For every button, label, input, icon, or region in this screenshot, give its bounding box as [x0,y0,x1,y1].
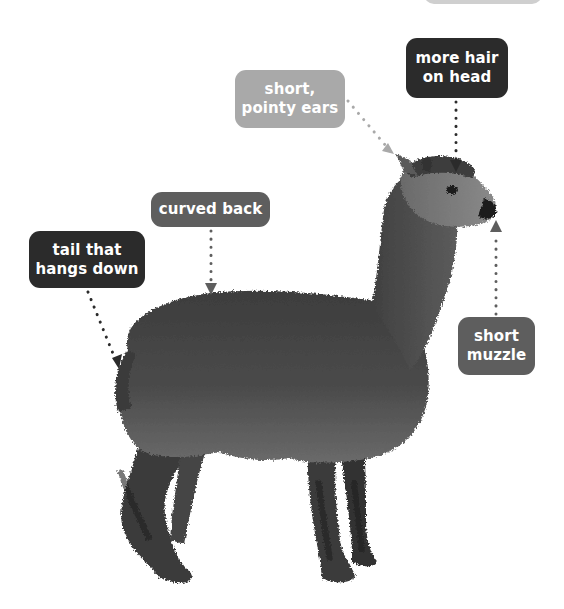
label-curved-back: curved back [151,192,270,227]
pointer-short-muzzle [490,220,502,314]
label-line: more hair [416,49,499,68]
label-line: curved back [159,200,263,219]
label-short-muzzle: short muzzle [458,317,535,375]
pointer-more-hair-on-head [450,102,462,172]
pointer-curved-back [205,231,217,295]
label-short-pointy-ears: short, pointy ears [235,70,345,128]
label-more-hair-on-head: more hair on head [406,38,508,98]
label-line: short, [265,80,316,99]
label-line: tail that [53,241,122,260]
label-line: hangs down [36,260,139,279]
label-tail-that-hangs-down: tail that hangs down [29,231,145,288]
label-line: on head [423,68,492,87]
pointer-tail-that-hangs-down [88,292,122,369]
pointer-short-pointy-ears [348,101,394,154]
label-line: short [474,327,519,346]
label-line: pointy ears [242,99,339,118]
label-line: muzzle [467,346,527,365]
